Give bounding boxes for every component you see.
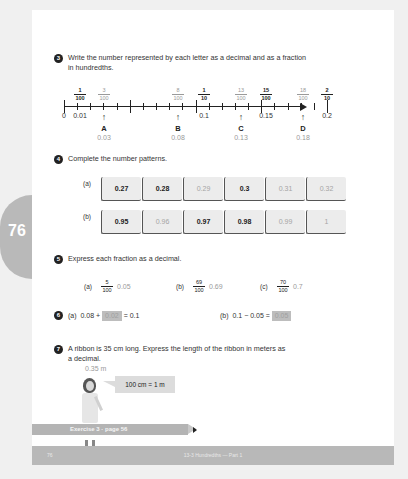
fraction-69-over-100: 69100	[193, 279, 205, 293]
pattern-box: 0.99	[265, 210, 305, 234]
tick-mark	[77, 103, 78, 110]
tick-mark	[143, 103, 144, 110]
fraction-item-label: (c)	[260, 283, 268, 290]
axis-label-0: 0	[62, 112, 66, 119]
fraction-70-over-100: 70100	[277, 279, 289, 293]
question-7-text-line2: a decimal.	[68, 354, 101, 364]
q6b-answer-blank: 0.05	[272, 311, 292, 321]
axis-label-0-2: 0.2	[322, 112, 332, 119]
fraction-5-over-100: 5100	[101, 279, 113, 293]
number-line	[64, 106, 303, 107]
point-answer-a: 0.03	[97, 134, 111, 141]
axis-label-0-15: 0.15	[259, 112, 273, 119]
q6a-pre: 0.08 +	[80, 312, 100, 319]
tick-mark	[235, 103, 236, 110]
fraction-item-label: (a)	[84, 283, 92, 290]
top-fraction-2-over-10: 210	[321, 87, 333, 101]
tick-mark	[288, 103, 289, 110]
question-5-text: Express each fraction as a decimal.	[68, 254, 181, 264]
up-arrow-icon: ↑	[102, 113, 107, 122]
pattern-box: 1	[306, 210, 346, 234]
question-6b: (b) 0.1 − 0.05 = 0.05	[220, 311, 291, 321]
page-footer: 76 13-3 Hundredths — Part 1	[32, 446, 394, 465]
top-fraction-15-over-100: 15100	[260, 87, 272, 101]
question-4-text: Complete the number patterns.	[68, 154, 167, 164]
top-fraction-3-over-100: 3100	[98, 87, 110, 101]
speech-bubble: 100 cm = 1 m	[115, 376, 175, 393]
tick-mark	[314, 103, 315, 110]
q6a-answer-blank: 0.02	[102, 311, 122, 321]
fraction-answer: 0.7	[293, 283, 303, 290]
top-fraction-1-over-100: 1100	[74, 87, 86, 101]
pattern-box: 0.31	[265, 177, 305, 201]
point-label-a: A	[101, 124, 106, 133]
tick-mark	[196, 100, 197, 113]
pencil-lead-icon	[193, 427, 197, 433]
tick-mark	[222, 103, 223, 110]
q6b-pre: 0.1 − 0.05 =	[232, 312, 269, 319]
tick-mark	[169, 103, 170, 110]
pattern-box: 0.95	[101, 210, 141, 234]
tick-mark	[182, 103, 183, 110]
pattern-box: 0.27	[101, 177, 141, 201]
point-answer-b: 0.08	[171, 134, 185, 141]
point-label-c: C	[238, 124, 243, 133]
q6a-label: (a)	[68, 312, 77, 319]
pattern-box: 0.32	[306, 177, 346, 201]
question-6-number: 6	[54, 311, 63, 320]
axis-label-0-1: 0.1	[199, 112, 209, 119]
up-arrow-icon: ↑	[176, 113, 181, 122]
tick-mark	[156, 103, 157, 110]
side-tab-page-number: 76	[0, 222, 34, 240]
fraction-answer: 0.69	[209, 283, 223, 290]
tick-mark	[90, 103, 91, 110]
footer-chapter-title: 13-3 Hundredths — Part 1	[32, 446, 394, 465]
question-5-number: 5	[54, 255, 63, 264]
question-3-text-line2: in hundredths.	[68, 63, 114, 73]
question-7-answer: 0.35 m	[85, 365, 106, 372]
girl-illustration-face	[86, 381, 94, 391]
pattern-box: 0.97	[183, 210, 223, 234]
pattern-row-label: (a)	[83, 180, 91, 187]
tick-mark	[248, 103, 249, 110]
tick-mark	[274, 103, 275, 110]
q6b-label: (b)	[220, 312, 229, 319]
point-answer-c: 0.13	[234, 134, 248, 141]
question-7-text-line1: A ribbon is 35 cm long. Express the leng…	[68, 344, 285, 354]
point-answer-d: 0.18	[296, 134, 310, 141]
pattern-box: 0.98	[224, 210, 264, 234]
question-3-text-line1: Write the number represented by each let…	[68, 53, 306, 63]
question-4-number: 4	[54, 155, 63, 164]
fraction-answer: 0.05	[117, 283, 131, 290]
top-fraction-18-over-100: 18100	[297, 87, 309, 101]
pattern-box: 0.29	[183, 177, 223, 201]
pattern-box: 0.28	[142, 177, 182, 201]
top-fraction-8-over-100: 8100	[172, 87, 184, 101]
up-arrow-icon: ↑	[301, 113, 306, 122]
pattern-box: 0.3	[224, 177, 264, 201]
question-3-number: 3	[54, 54, 63, 63]
tick-mark	[117, 103, 118, 110]
tick-mark	[103, 103, 104, 110]
pattern-row-label: (b)	[83, 213, 91, 220]
question-7-number: 7	[54, 345, 63, 354]
up-arrow-icon: ↑	[239, 113, 244, 122]
pattern-box: 0.96	[142, 210, 182, 234]
fraction-item-label: (b)	[176, 283, 184, 290]
tick-mark	[301, 103, 302, 110]
point-label-b: B	[175, 124, 180, 133]
tick-mark	[130, 100, 131, 113]
speech-bubble-tail	[103, 381, 115, 387]
question-6a: (a) 0.08 + 0.02 = 0.1	[68, 311, 139, 321]
top-fraction-13-over-100: 13100	[235, 87, 247, 101]
tick-mark	[209, 103, 210, 110]
q6a-post: = 0.1	[124, 312, 140, 319]
exercise-banner[interactable]: Exercise 3 · page 56	[32, 424, 188, 435]
top-fraction-1-over-10: 110	[198, 87, 210, 101]
axis-label-0-01: 0.01	[73, 112, 87, 119]
point-label-d: D	[300, 124, 305, 133]
